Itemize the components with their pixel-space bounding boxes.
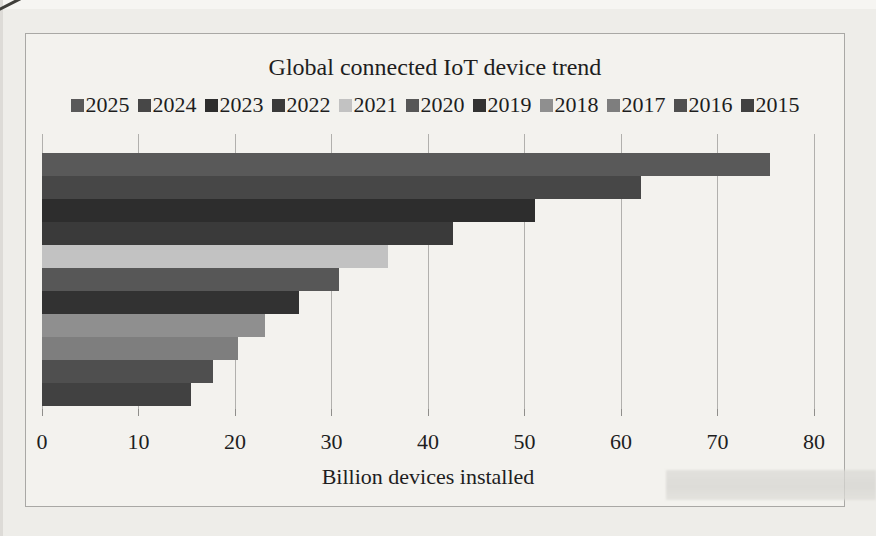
legend-label-2023: 2023 [220, 94, 264, 116]
legend-swatch-2023 [205, 99, 218, 112]
page-top-strip [0, 0, 876, 9]
legend-item-2022: 2022 [272, 94, 331, 116]
tick-label-80: 80 [803, 429, 825, 455]
bar-2015 [42, 383, 191, 406]
legend-label-2015: 2015 [756, 94, 800, 116]
page-bleed-through-artifact [666, 470, 876, 500]
legend-label-2018: 2018 [555, 94, 599, 116]
legend-label-2020: 2020 [421, 94, 465, 116]
axis-tick-40 [428, 409, 429, 416]
legend-label-2025: 2025 [86, 94, 130, 116]
axis-tick-80 [814, 409, 815, 416]
bar-series-group [42, 153, 814, 406]
page-left-edge-shadow [0, 0, 3, 536]
chart-legend: 2025202420232022202120202019201820172016… [26, 91, 844, 119]
tick-label-70: 70 [707, 429, 729, 455]
legend-swatch-2021 [339, 99, 352, 112]
legend-swatch-2020 [406, 99, 419, 112]
legend-item-2019: 2019 [473, 94, 532, 116]
tick-label-20: 20 [224, 429, 246, 455]
bar-2024 [42, 176, 641, 199]
legend-item-2016: 2016 [674, 94, 733, 116]
legend-label-2017: 2017 [622, 94, 666, 116]
axis-tick-0 [42, 409, 43, 416]
axis-tick-20 [235, 409, 236, 416]
bar-2021 [42, 245, 388, 268]
chart-title: Global connected IoT device trend [26, 54, 844, 81]
axis-tick-60 [621, 409, 622, 416]
scanned-page: { "page": { "background_color": "#eeede9… [0, 0, 876, 536]
legend-swatch-2016 [674, 99, 687, 112]
axis-tick-10 [138, 409, 139, 416]
legend-label-2016: 2016 [689, 94, 733, 116]
chart-panel: Global connected IoT device trend 202520… [25, 33, 845, 507]
legend-swatch-2022 [272, 99, 285, 112]
bar-2017 [42, 337, 238, 360]
bar-2022 [42, 222, 453, 245]
legend-swatch-2018 [540, 99, 553, 112]
tick-label-60: 60 [610, 429, 632, 455]
legend-label-2024: 2024 [153, 94, 197, 116]
bar-2025 [42, 153, 770, 176]
legend-item-2025: 2025 [71, 94, 130, 116]
legend-item-2021: 2021 [339, 94, 398, 116]
tick-label-10: 10 [128, 429, 150, 455]
bar-2019 [42, 291, 299, 314]
legend-swatch-2025 [71, 99, 84, 112]
legend-item-2018: 2018 [540, 94, 599, 116]
legend-item-2024: 2024 [138, 94, 197, 116]
plot-area [42, 134, 814, 409]
tick-label-0: 0 [37, 429, 48, 455]
legend-swatch-2015 [741, 99, 754, 112]
bar-2016 [42, 360, 213, 383]
axis-tick-70 [717, 409, 718, 416]
legend-swatch-2024 [138, 99, 151, 112]
axis-tick-50 [524, 409, 525, 416]
legend-item-2020: 2020 [406, 94, 465, 116]
legend-label-2019: 2019 [488, 94, 532, 116]
tick-label-50: 50 [514, 429, 536, 455]
tick-label-30: 30 [321, 429, 343, 455]
tick-label-40: 40 [417, 429, 439, 455]
bar-2020 [42, 268, 339, 291]
legend-label-2022: 2022 [287, 94, 331, 116]
axis-tick-30 [331, 409, 332, 416]
legend-item-2017: 2017 [607, 94, 666, 116]
legend-item-2023: 2023 [205, 94, 264, 116]
legend-swatch-2019 [473, 99, 486, 112]
legend-label-2021: 2021 [354, 94, 398, 116]
legend-item-2015: 2015 [741, 94, 800, 116]
bar-2018 [42, 314, 265, 337]
bar-2023 [42, 199, 535, 222]
legend-swatch-2017 [607, 99, 620, 112]
